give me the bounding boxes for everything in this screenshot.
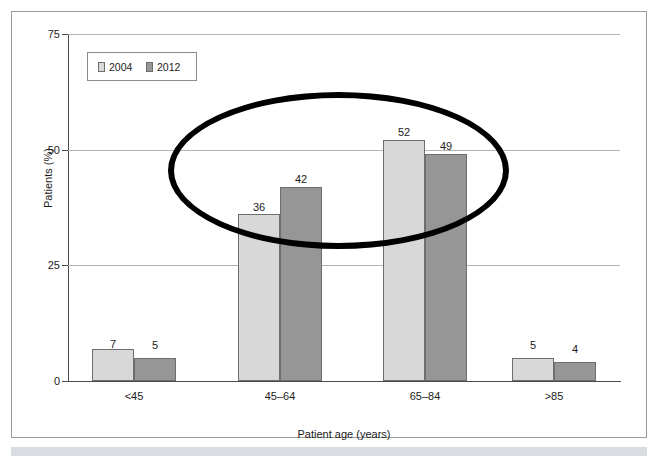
bar-value-2004-gt85: 5 bbox=[510, 339, 556, 351]
legend-item-2012[interactable]: 2012 bbox=[146, 61, 180, 73]
series-2012-swatch-icon bbox=[146, 62, 153, 72]
bar-2004-65-84[interactable] bbox=[383, 140, 425, 381]
bar-2004-gt85[interactable] bbox=[512, 358, 554, 381]
x-tick-label-lt45: <45 bbox=[74, 390, 194, 402]
y-tickmark-0 bbox=[62, 381, 68, 382]
bar-value-2004-45-64: 36 bbox=[236, 201, 282, 213]
y-tick-label-0: 0 bbox=[22, 376, 60, 387]
y-tick-label-25: 25 bbox=[22, 260, 60, 271]
chart-legend: 2004 2012 bbox=[87, 52, 197, 81]
gridline-75 bbox=[68, 34, 620, 35]
bar-value-2012-45-64: 42 bbox=[278, 173, 324, 185]
gridline-25 bbox=[68, 265, 620, 266]
bar-2004-45-64[interactable] bbox=[238, 214, 280, 381]
bar-value-2004-lt45: 7 bbox=[90, 338, 136, 350]
plot-area: 75 50 25 0 Patients (%) 7 5 36 42 52 49 bbox=[68, 34, 620, 381]
bar-value-2012-gt85: 4 bbox=[552, 343, 598, 355]
bar-2012-65-84[interactable] bbox=[425, 154, 467, 381]
legend-label-2012: 2012 bbox=[157, 61, 180, 73]
legend-label-2004: 2004 bbox=[109, 61, 132, 73]
x-axis-label: Patient age (years) bbox=[68, 428, 620, 440]
figure-container: 75 50 25 0 Patients (%) 7 5 36 42 52 49 bbox=[0, 0, 659, 460]
y-axis-line bbox=[68, 34, 69, 382]
bar-2012-45-64[interactable] bbox=[280, 187, 322, 381]
bar-2012-gt85[interactable] bbox=[554, 362, 596, 381]
bar-2004-lt45[interactable] bbox=[92, 349, 134, 381]
bar-value-2012-65-84: 49 bbox=[423, 140, 469, 152]
y-tickmark-75 bbox=[62, 34, 68, 35]
x-tick-label-65-84: 65–84 bbox=[365, 390, 485, 402]
y-tick-label-50: 50 bbox=[22, 145, 60, 156]
series-2004-swatch-icon bbox=[98, 62, 105, 72]
footer-band bbox=[11, 447, 647, 456]
x-axis-line bbox=[68, 381, 621, 382]
y-axis-label: Patients (%) bbox=[42, 148, 54, 208]
x-tick-label-45-64: 45–64 bbox=[220, 390, 340, 402]
y-tickmark-50 bbox=[62, 150, 68, 151]
bar-2012-lt45[interactable] bbox=[134, 358, 176, 381]
y-tick-label-75: 75 bbox=[22, 29, 60, 40]
bar-value-2004-65-84: 52 bbox=[381, 126, 427, 138]
y-tickmark-25 bbox=[62, 265, 68, 266]
x-tick-label-gt85: >85 bbox=[494, 390, 614, 402]
legend-item-2004[interactable]: 2004 bbox=[98, 61, 132, 73]
bar-value-2012-lt45: 5 bbox=[132, 339, 178, 351]
gridline-50 bbox=[68, 150, 620, 151]
